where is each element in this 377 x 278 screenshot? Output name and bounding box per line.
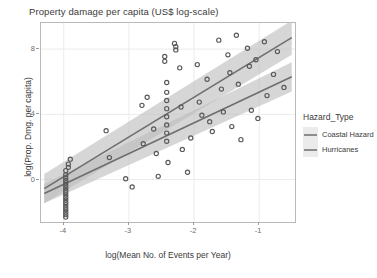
x-tickmark <box>258 222 259 225</box>
scatter-plot-canvas <box>41 23 295 222</box>
y-tickmark <box>36 179 39 180</box>
x-axis-title: log(Mean No. of Events per Year) <box>105 250 231 260</box>
legend-key-icon <box>303 127 318 142</box>
x-tickmark <box>193 222 194 225</box>
x-tick-label: -1 <box>255 226 262 235</box>
y-axis-title: log(Prop. Dmg. per capita) <box>23 47 33 207</box>
legend-item-2[interactable]: Hurricanes <box>303 142 375 157</box>
x-tickmark <box>128 222 129 225</box>
x-tick-label: -4 <box>59 226 66 235</box>
x-tick-label: -2 <box>190 226 197 235</box>
y-tickmark <box>36 113 39 114</box>
y-tickmark <box>36 48 39 49</box>
legend-item-label: Hurricanes <box>322 145 358 154</box>
plot-panel <box>40 22 296 223</box>
x-tickmark <box>63 222 64 225</box>
legend-title: Hazard_Type <box>303 112 375 122</box>
legend-item-label: Coastal Hazard <box>322 130 374 139</box>
page-title: Property damage per capita (US$ log-scal… <box>29 6 219 17</box>
legend-item-1[interactable]: Coastal Hazard <box>303 127 375 142</box>
legend-key-icon <box>303 142 318 157</box>
legend: Hazard_Type Coastal HazardHurricanes <box>303 112 375 157</box>
x-tick-label: -3 <box>125 226 132 235</box>
legend-entries: Coastal HazardHurricanes <box>303 127 375 157</box>
chart-root: Property damage per capita (US$ log-scal… <box>0 0 377 278</box>
